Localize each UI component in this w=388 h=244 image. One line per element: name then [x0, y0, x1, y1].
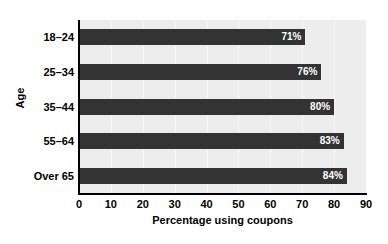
bar-row: 76% [79, 64, 366, 80]
x-axis-line [78, 193, 367, 195]
bar [79, 133, 344, 149]
bar-row: 83% [79, 133, 366, 149]
x-axis-tick-labels: 0102030405060708090 [0, 198, 388, 214]
y-axis-tick-label: 55–64 [20, 135, 74, 147]
x-axis-tick-label: 50 [223, 198, 253, 211]
y-axis-tick-label: 18–24 [20, 31, 74, 43]
y-axis-tick-label: Over 65 [20, 170, 74, 182]
x-axis-tick-label: 40 [192, 198, 222, 211]
bar-row: 84% [79, 168, 366, 184]
x-axis-tick-label: 10 [96, 198, 126, 211]
x-axis-tick-label: 90 [351, 198, 381, 211]
bar-value-label: 83% [314, 134, 340, 148]
plot-area: 71%76%80%83%84% [79, 20, 366, 193]
bar-row: 71% [79, 29, 366, 45]
bar [79, 64, 321, 80]
y-axis-line [78, 20, 80, 194]
bar-value-label: 80% [304, 100, 330, 114]
y-axis-tick-label: 25–34 [20, 66, 74, 78]
x-axis-tick-label: 20 [128, 198, 158, 211]
x-axis-tick-label: 0 [64, 198, 94, 211]
bar [79, 29, 305, 45]
bar-value-label: 71% [275, 30, 301, 44]
bar-chart: Age 18–2425–3435–4455–64Over 65 71%76%80… [0, 0, 388, 244]
x-axis-tick-label: 80 [319, 198, 349, 211]
bar-row: 80% [79, 99, 366, 115]
bar-value-label: 84% [317, 169, 343, 183]
x-axis-title: Percentage using coupons [79, 214, 366, 226]
x-axis-tick-label: 70 [287, 198, 317, 211]
x-axis-tick-label: 30 [160, 198, 190, 211]
bar [79, 99, 334, 115]
y-axis-tick-label: 35–44 [20, 101, 74, 113]
bar-value-label: 76% [291, 65, 317, 79]
bar [79, 168, 347, 184]
y-axis-tick-labels: 18–2425–3435–4455–64Over 65 [20, 20, 74, 193]
x-axis-tick-label: 60 [255, 198, 285, 211]
